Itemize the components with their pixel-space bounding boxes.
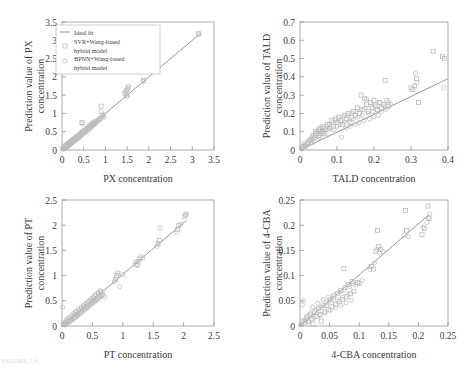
data-point xyxy=(431,49,435,53)
y-axis-label: Prediction value of PTconcentration xyxy=(23,218,46,308)
data-point xyxy=(376,113,380,117)
data-point xyxy=(158,226,162,230)
panel-pt: 00.511.522.500.511.522.5PT concentration… xyxy=(0,186,234,362)
plot-4cba: 00.050.10.150.20.2500.050.10.150.20.254-… xyxy=(234,186,467,362)
svg-text:Prediction value of PT: Prediction value of PT xyxy=(23,218,34,308)
data-point xyxy=(316,301,320,305)
x-tick-label: 0.1 xyxy=(353,331,365,341)
data-point xyxy=(383,79,387,83)
data-point xyxy=(416,100,420,104)
y-tick-label: 2.5 xyxy=(45,54,57,64)
y-tick-label: 0.5 xyxy=(283,54,295,64)
y-tick-label: 1 xyxy=(52,271,57,281)
legend-label-bpnn-line2: hybrid model xyxy=(74,64,107,71)
data-point xyxy=(425,221,429,225)
data-point xyxy=(349,298,353,302)
data-point xyxy=(413,71,417,75)
scatter-series-svr xyxy=(300,49,446,150)
x-tick-label: 0 xyxy=(60,331,65,341)
x-axis-label: PT concentration xyxy=(104,349,172,360)
x-tick-label: 0.1 xyxy=(331,155,343,165)
legend-label-svr-line2: hybrid model xyxy=(74,47,107,54)
x-tick-label: 1.5 xyxy=(121,155,133,165)
svg-text:concentration: concentration xyxy=(273,236,284,290)
y-tick-label: 0 xyxy=(52,146,57,156)
y-tick-label: 0.05 xyxy=(278,296,295,306)
y-tick-label: 1.5 xyxy=(45,246,57,256)
x-tick-label: 0.3 xyxy=(405,155,417,165)
data-point xyxy=(367,117,371,121)
plot-px: 00.511.522.533.500.511.522.533.5PX conce… xyxy=(0,4,234,184)
data-point xyxy=(174,230,178,234)
x-tick-label: 0.05 xyxy=(321,331,338,341)
data-point xyxy=(376,228,380,232)
data-point xyxy=(426,204,430,208)
scatter-series-bpnn xyxy=(299,71,445,151)
y-tick-label: 0.4 xyxy=(283,72,295,82)
y-tick-label: 3.5 xyxy=(45,18,57,28)
y-tick-label: 0.1 xyxy=(283,127,295,137)
y-tick-label: 0 xyxy=(290,322,295,332)
x-tick-label: 0.2 xyxy=(412,331,424,341)
x-tick-label: 2 xyxy=(181,331,186,341)
y-tick-label: 2.5 xyxy=(45,196,57,206)
data-point xyxy=(300,303,304,307)
y-tick-label: 0.3 xyxy=(283,91,295,101)
legend-box xyxy=(56,25,160,74)
data-point xyxy=(99,104,103,108)
x-tick-label: 3.5 xyxy=(208,155,220,165)
data-point xyxy=(421,225,425,229)
ideal-fit-line xyxy=(300,215,429,326)
legend-label-bpnn-line1: BPNN+Wang-based xyxy=(74,55,125,62)
data-point xyxy=(80,122,84,126)
y-tick-label: 1.5 xyxy=(45,91,57,101)
data-point xyxy=(310,305,314,309)
x-tick-label: 2.5 xyxy=(208,331,220,341)
svg-text:concentration: concentration xyxy=(35,59,46,113)
data-point xyxy=(339,135,343,139)
svg-text:Prediction value of PX: Prediction value of PX xyxy=(23,40,34,132)
y-axis-label: Prediction value of PXconcentration xyxy=(23,40,46,132)
figure-caption: FIGURE 1.6 xyxy=(2,357,38,364)
data-point xyxy=(372,115,376,119)
x-tick-label: 0.25 xyxy=(440,331,457,341)
y-tick-label: 0.7 xyxy=(283,18,295,28)
x-tick-label: 3 xyxy=(190,155,195,165)
y-tick-label: 0.1 xyxy=(283,271,295,281)
x-tick-label: 2.5 xyxy=(165,155,177,165)
data-point xyxy=(311,322,315,326)
y-tick-label: 0.5 xyxy=(45,127,57,137)
x-axis-label: 4-CBA concentration xyxy=(331,349,416,360)
y-tick-label: 0.25 xyxy=(278,196,295,206)
x-tick-label: 1 xyxy=(120,331,125,341)
data-point xyxy=(406,235,410,239)
data-point xyxy=(405,228,409,232)
data-point xyxy=(420,233,424,237)
svg-text:Prediction value of 4-CBA: Prediction value of 4-CBA xyxy=(261,208,272,316)
x-tick-label: 1.5 xyxy=(147,331,159,341)
data-point xyxy=(61,305,65,309)
x-axis-label: TALD concentration xyxy=(333,173,416,184)
panel-4cba: 00.050.10.150.20.2500.050.10.150.20.254-… xyxy=(234,186,467,362)
svg-text:Prediction value of TALD: Prediction value of TALD xyxy=(261,34,272,138)
figure-container: 00.511.522.533.500.511.522.533.5PX conce… xyxy=(0,0,467,372)
x-tick-label: 0.4 xyxy=(442,155,454,165)
x-tick-label: 0.5 xyxy=(78,155,90,165)
data-point xyxy=(118,285,122,289)
y-tick-label: 0 xyxy=(52,322,57,332)
x-tick-label: 0.15 xyxy=(380,331,397,341)
x-tick-label: 0 xyxy=(298,331,303,341)
data-point xyxy=(403,209,407,213)
data-point xyxy=(323,311,327,315)
panel-px: 00.511.522.533.500.511.522.533.5PX conce… xyxy=(0,4,234,184)
svg-text:concentration: concentration xyxy=(273,59,284,113)
data-point xyxy=(342,267,346,271)
panel-tald: 00.10.20.30.400.10.20.30.40.50.60.7TALD … xyxy=(234,4,467,184)
data-point xyxy=(116,271,120,275)
x-tick-label: 2 xyxy=(146,155,151,165)
data-point xyxy=(321,298,325,302)
svg-text:concentration: concentration xyxy=(35,236,46,290)
x-tick-label: 0.5 xyxy=(86,331,98,341)
x-tick-label: 0.2 xyxy=(368,155,380,165)
y-tick-label: 0.2 xyxy=(283,109,295,119)
